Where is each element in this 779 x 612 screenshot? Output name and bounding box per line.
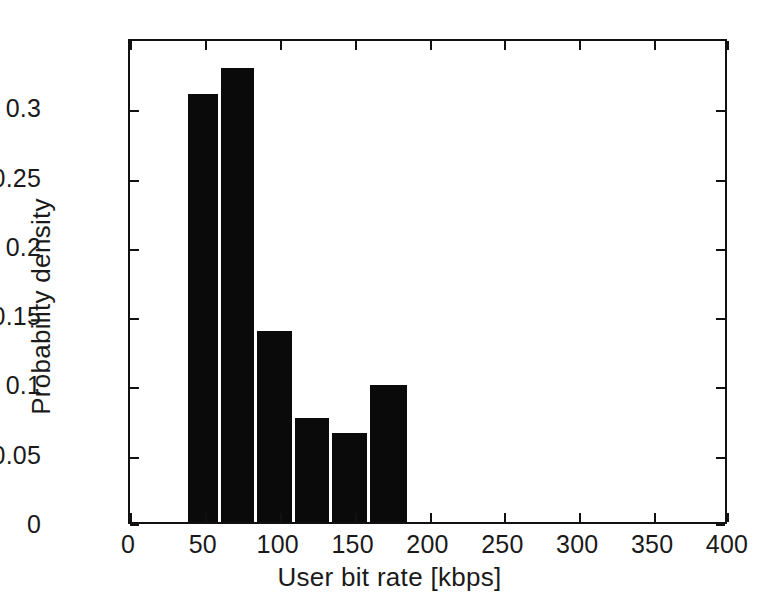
y-axis-tick xyxy=(130,110,139,112)
x-axis-tick-label: 100 xyxy=(257,530,299,559)
bar xyxy=(221,68,254,523)
x-axis-tick xyxy=(280,513,282,522)
y-axis-tick xyxy=(716,110,725,112)
x-axis-tick xyxy=(654,41,656,50)
x-axis-tick-label: 50 xyxy=(189,530,217,559)
y-axis-tick xyxy=(130,457,139,459)
x-axis-tick xyxy=(504,41,506,50)
x-axis-tick xyxy=(504,513,506,522)
x-axis-tick xyxy=(355,41,357,50)
y-axis-tick xyxy=(130,318,139,320)
y-axis-tick xyxy=(716,387,725,389)
y-axis-tick xyxy=(716,318,725,320)
bar-series xyxy=(130,41,725,522)
x-axis-tick xyxy=(727,513,729,522)
y-axis-tick xyxy=(130,249,139,251)
x-axis-tick xyxy=(654,513,656,522)
y-axis-tick-label: 0.2 xyxy=(6,232,41,261)
y-axis-tick xyxy=(716,524,725,526)
bar xyxy=(257,331,291,522)
x-axis-tick xyxy=(205,513,207,522)
y-axis-tick-label: 0.1 xyxy=(6,371,41,400)
y-axis-tick-label: 0.3 xyxy=(6,94,41,123)
x-axis-tick xyxy=(280,41,282,50)
y-axis-tick-label: 0.15 xyxy=(0,302,41,331)
y-axis-tick-label: 0.05 xyxy=(0,440,41,469)
y-axis-tick xyxy=(130,387,139,389)
y-axis-tick xyxy=(716,457,725,459)
bar xyxy=(295,418,329,522)
y-axis-tick-label: 0.25 xyxy=(0,163,41,192)
plot-area xyxy=(128,39,727,524)
bar xyxy=(332,433,366,522)
bar xyxy=(370,385,407,522)
y-axis-tick xyxy=(716,180,725,182)
x-axis-tick xyxy=(205,41,207,50)
x-axis-tick xyxy=(579,513,581,522)
x-axis-tick-label: 250 xyxy=(481,530,523,559)
x-axis-tick xyxy=(130,513,132,522)
x-axis-tick xyxy=(727,41,729,50)
y-axis-tick xyxy=(716,249,725,251)
y-axis-tick-label: 0 xyxy=(27,510,41,539)
x-axis-tick-label: 200 xyxy=(406,530,448,559)
x-axis-tick-label: 400 xyxy=(706,530,748,559)
y-axis-tick xyxy=(130,524,139,526)
x-axis-tick-label: 0 xyxy=(121,530,135,559)
x-axis-tick-label: 300 xyxy=(556,530,598,559)
bar xyxy=(188,94,218,522)
x-axis-tick xyxy=(130,41,132,50)
x-axis-tick-label: 350 xyxy=(631,530,673,559)
x-axis-tick xyxy=(430,513,432,522)
x-axis-tick-label: 150 xyxy=(331,530,373,559)
x-axis-tick xyxy=(579,41,581,50)
x-axis-tick xyxy=(430,41,432,50)
figure-canvas: Probability density 00.050.10.150.20.250… xyxy=(0,0,779,612)
x-axis-title: User bit rate [kbps] xyxy=(0,562,779,593)
y-axis-tick xyxy=(130,180,139,182)
x-axis-tick xyxy=(355,513,357,522)
